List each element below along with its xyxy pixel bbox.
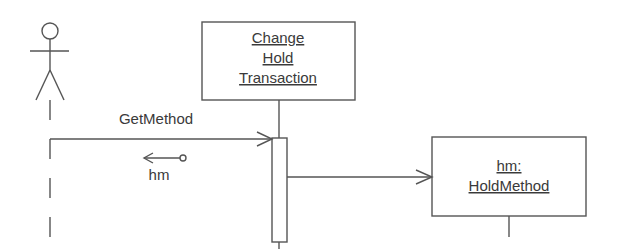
object-hold-method: hm: HoldMethod xyxy=(432,137,586,216)
message-create-hold-method xyxy=(287,170,432,184)
message-label: GetMethod xyxy=(119,110,193,127)
actor-icon xyxy=(30,23,69,100)
return-label: hm xyxy=(149,166,170,183)
sequence-diagram: Change Hold Transaction GetMethod hm hm:… xyxy=(0,0,622,249)
object-label-line: hm: xyxy=(496,157,521,174)
object-label-line: Hold xyxy=(263,49,294,66)
data-token-icon xyxy=(180,155,186,161)
message-get-method: GetMethod xyxy=(50,110,272,146)
object-label-line: Transaction xyxy=(239,69,317,86)
activation-bar xyxy=(272,138,287,242)
return-value-hm: hm xyxy=(144,153,186,183)
object-change-hold-transaction: Change Hold Transaction xyxy=(202,22,355,100)
object-label-line: HoldMethod xyxy=(469,177,550,194)
object-label-line: Change xyxy=(252,29,305,46)
